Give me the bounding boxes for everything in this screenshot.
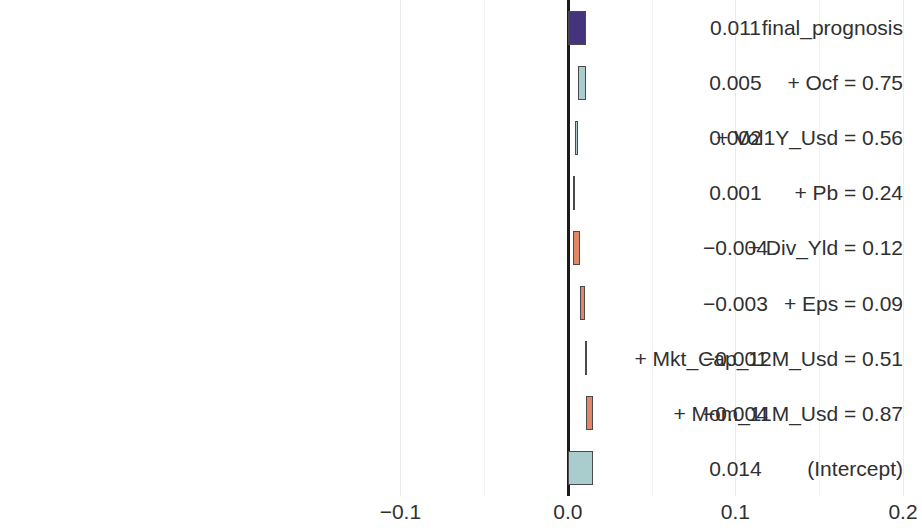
bar-value-label: 0.011: [675, 0, 795, 55]
breakdown-row: + Eps = 0.09−0.003: [0, 276, 903, 331]
bar-positive[interactable]: [578, 66, 586, 100]
bar-cell: 0.002: [330, 110, 903, 165]
x-tick-label: 0.2: [863, 500, 922, 524]
bar-value-label: −0.001: [675, 331, 795, 386]
breakdown-row: + Ocf = 0.750.005: [0, 55, 903, 110]
x-tick-label: 0.1: [695, 500, 775, 524]
bar-total[interactable]: [568, 11, 586, 45]
bar-value-label: 0.001: [675, 165, 795, 220]
bar-cell: 0.011: [330, 0, 903, 55]
bar-cell: 0.005: [330, 55, 903, 110]
bar-value-label: −0.004: [675, 386, 795, 441]
breakdown-row: + Div_Yld = 0.12−0.004: [0, 220, 903, 275]
bar-value-label: 0.005: [675, 55, 795, 110]
breakdown-row: + Mkt_Cap_12M_Usd = 0.51−0.001: [0, 331, 903, 386]
breakdown-row: + Pb = 0.240.001: [0, 165, 903, 220]
bar-negative[interactable]: [573, 231, 580, 265]
bar-cell: 0.001: [330, 165, 903, 220]
bar-cell: −0.001: [330, 331, 903, 386]
breakdown-row: + Mom_11M_Usd = 0.87−0.004: [0, 386, 903, 441]
bar-positive[interactable]: [573, 176, 575, 210]
bar-negative[interactable]: [586, 396, 593, 430]
breakdown-row: + Vol1Y_Usd = 0.560.002: [0, 110, 903, 165]
bar-value-label: −0.004: [675, 220, 795, 275]
bar-value-label: −0.003: [675, 276, 795, 331]
breakdown-row: (Intercept)0.014: [0, 441, 903, 496]
gridline-major: [903, 0, 904, 496]
bar-positive[interactable]: [575, 121, 578, 155]
bar-cell: −0.004: [330, 386, 903, 441]
x-tick-label: −0.1: [360, 500, 440, 524]
bar-cell: −0.003: [330, 276, 903, 331]
x-tick-label: 0.0: [528, 500, 608, 524]
bar-negative[interactable]: [585, 341, 587, 375]
x-axis: −0.10.00.10.2: [330, 496, 903, 532]
bar-intercept[interactable]: [568, 451, 593, 485]
bar-value-label: 0.002: [675, 110, 795, 165]
bar-value-label: 0.014: [675, 441, 795, 496]
bar-cell: −0.004: [330, 220, 903, 275]
bar-negative[interactable]: [580, 286, 585, 320]
breakdown-row: final_prognosis0.011: [0, 0, 903, 55]
bar-cell: 0.014: [330, 441, 903, 496]
